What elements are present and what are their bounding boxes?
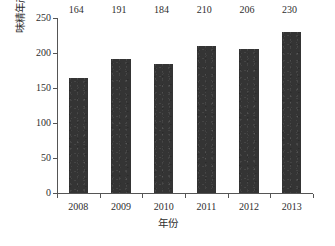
x-axis-tick-mark — [185, 194, 186, 198]
x-axis-category-label: 2008 — [57, 200, 100, 213]
y-axis-tick-label: 250 — [36, 11, 51, 24]
x-axis-category-label: 2013 — [270, 200, 313, 213]
y-axis-tick: 100 — [57, 123, 58, 124]
x-axis-title: 年份 — [0, 215, 335, 230]
bar-rect: 206 — [239, 49, 258, 193]
bar-value-label: 230 — [282, 4, 297, 16]
y-axis-tick-mark — [53, 123, 58, 124]
y-axis-tick-mark — [53, 53, 58, 54]
y-axis-tick-label: 50 — [41, 151, 51, 164]
y-axis-tick-mark — [53, 88, 58, 89]
x-axis-tick-mark — [313, 194, 314, 198]
bar-value-label: 164 — [69, 4, 84, 16]
x-axis-tick-mark — [100, 194, 101, 198]
bar-value-label: 206 — [239, 4, 254, 16]
bar-item: 164 — [69, 18, 88, 193]
y-axis-title: 味精年产量/万t — [13, 0, 29, 52]
bar-value-label: 184 — [154, 4, 169, 16]
bar-value-label: 210 — [197, 4, 212, 16]
bar-rect: 210 — [197, 46, 216, 193]
bar-rect: 184 — [154, 64, 173, 193]
bar-rect: 230 — [282, 32, 301, 193]
y-axis-tick-mark — [53, 18, 58, 19]
x-axis-tick-mark — [228, 194, 229, 198]
x-axis-category-label: 2012 — [228, 200, 271, 213]
y-axis-tick-label: 100 — [36, 116, 51, 129]
y-axis-tick: 50 — [57, 158, 58, 159]
bar-chart-figure: 味精年产量/万t 050100150200250 164191184210206… — [0, 0, 335, 246]
y-axis-tick: 150 — [57, 88, 58, 89]
x-axis-category-label: 2010 — [142, 200, 185, 213]
bar-item: 191 — [111, 18, 130, 193]
y-axis-tick-mark — [53, 158, 58, 159]
y-axis-tick: 250 — [57, 18, 58, 19]
x-axis-tick-mark — [142, 194, 143, 198]
bar-item: 206 — [239, 18, 258, 193]
bar-item: 210 — [197, 18, 216, 193]
y-axis-tick-label: 200 — [36, 46, 51, 59]
y-axis-tick-label: 150 — [36, 81, 51, 94]
x-axis-category-label: 2009 — [100, 200, 143, 213]
bar-item: 230 — [282, 18, 301, 193]
y-axis-line — [57, 18, 58, 194]
bar-rect: 191 — [111, 59, 130, 193]
y-axis-tick-label: 0 — [46, 186, 51, 199]
x-axis-tick-mark — [57, 194, 58, 198]
bar-value-label: 191 — [111, 4, 126, 16]
bar-rect: 164 — [69, 78, 88, 193]
y-axis-tick: 200 — [57, 53, 58, 54]
bar-item: 184 — [154, 18, 173, 193]
x-axis-category-label: 2011 — [185, 200, 228, 213]
x-axis-tick-mark — [270, 194, 271, 198]
plot-area: 050100150200250 164191184210206230 20082… — [57, 18, 313, 194]
